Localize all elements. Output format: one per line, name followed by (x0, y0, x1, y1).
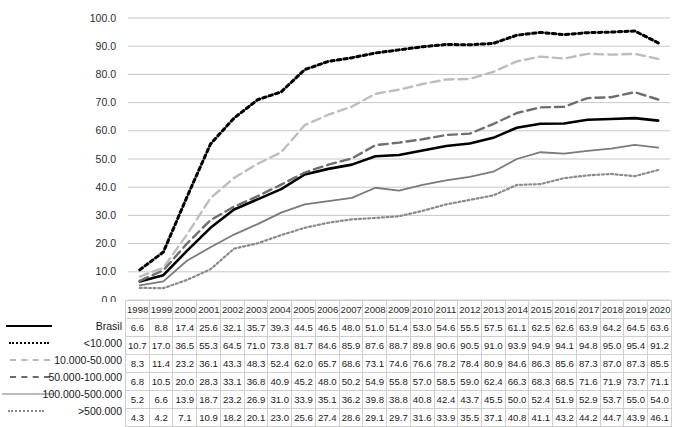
table-cell: 6.6 (126, 319, 150, 337)
table-column-header: 2016 (553, 301, 577, 319)
y-axis-tick-label: 50.0 (96, 153, 117, 165)
chart-legend: Brasil<10.00010.000-50.00050.000-100.000… (0, 300, 124, 420)
table-column-header: 2019 (624, 301, 648, 319)
table-cell: 26.9 (244, 391, 268, 409)
table-cell: 10.7 (126, 337, 150, 355)
table-cell: 25.6 (197, 319, 221, 337)
table-cell: 54.9 (363, 373, 387, 391)
table-column-header: 2007 (339, 301, 363, 319)
table-column-header: 2015 (529, 301, 553, 319)
legend-item-label: Brasil (96, 320, 122, 331)
table-cell: 93.9 (505, 337, 529, 355)
legend-item-label: <10.000 (84, 337, 122, 348)
table-row: 10.717.036.555.364.571.073.881.784.685.9… (126, 337, 672, 355)
series-lines (140, 31, 658, 288)
table-column-header: 2005 (292, 301, 316, 319)
table-cell: 44.5 (292, 319, 316, 337)
y-axis-tick-label: 80.0 (96, 68, 117, 80)
table-cell: 17.4 (173, 319, 197, 337)
table-cell: 73.7 (624, 373, 648, 391)
table-cell: 28.3 (197, 373, 221, 391)
table-cell: 58.5 (434, 373, 458, 391)
table-cell: 18.2 (220, 409, 244, 427)
table-cell: 50.2 (339, 373, 363, 391)
table-cell: 87.6 (363, 337, 387, 355)
legend-line-swatch-icon (8, 410, 44, 412)
table-cell: 76.6 (410, 355, 434, 373)
table-cell: 55.8 (387, 373, 411, 391)
table-column-header: 2017 (576, 301, 600, 319)
table-cell: 90.5 (458, 337, 482, 355)
table-cell: 63.9 (576, 319, 600, 337)
table-cell: 33.9 (434, 409, 458, 427)
chart-svg: 0.010.020.030.040.050.060.070.080.090.01… (0, 0, 682, 302)
table-cell: 91.0 (482, 337, 506, 355)
table-cell: 62.4 (482, 373, 506, 391)
table-cell: 36.2 (339, 391, 363, 409)
table-column-header: 2001 (197, 301, 221, 319)
table-cell: 48.0 (339, 319, 363, 337)
table-cell: 94.9 (529, 337, 553, 355)
legend-line-swatch-icon (10, 376, 50, 378)
table-body: 6.68.817.425.632.135.739.344.546.548.051… (126, 319, 672, 427)
series-line-1 (140, 31, 658, 270)
table-cell: 41.1 (529, 409, 553, 427)
table-column-header: 2020 (648, 301, 672, 319)
legend-item-label: 50.000-100.000 (48, 371, 122, 382)
table-cell: 43.3 (220, 355, 244, 373)
table-cell: 20.0 (173, 373, 197, 391)
table-cell: 53.7 (600, 391, 624, 409)
table-cell: 20.1 (244, 409, 268, 427)
table-cell: 38.8 (387, 391, 411, 409)
table-cell: 90.6 (434, 337, 458, 355)
table-header: 1998199920002001200220032004200520062007… (126, 301, 672, 319)
table-column-header: 2004 (268, 301, 292, 319)
table-cell: 95.0 (600, 337, 624, 355)
table-cell: 57.0 (410, 373, 434, 391)
table-cell: 74.6 (387, 355, 411, 373)
legend-item-label: 10.000-50.000 (54, 354, 122, 365)
table-cell: 62.5 (529, 319, 553, 337)
legend-item: >500.000 (0, 402, 124, 419)
table-cell: 87.0 (600, 355, 624, 373)
table-cell: 89.8 (410, 337, 434, 355)
table-cell: 62.6 (553, 319, 577, 337)
table-cell: 54.6 (434, 319, 458, 337)
legend-item: <10.000 (0, 334, 124, 351)
y-axis-tick-label: 10.0 (96, 265, 117, 277)
table-cell: 52.4 (268, 355, 292, 373)
table-cell: 31.6 (410, 409, 434, 427)
table-cell: 66.3 (505, 373, 529, 391)
table-cell: 57.5 (482, 319, 506, 337)
table-cell: 50.0 (505, 391, 529, 409)
table-cell: 7.1 (173, 409, 197, 427)
table-header-row: 1998199920002001200220032004200520062007… (126, 301, 672, 319)
table-cell: 94.1 (553, 337, 577, 355)
table-cell: 48.0 (315, 373, 339, 391)
table-cell: 86.3 (529, 355, 553, 373)
table-cell: 59.0 (458, 373, 482, 391)
table-cell: 18.7 (197, 391, 221, 409)
table-column-header: 2000 (173, 301, 197, 319)
table-cell: 23.2 (220, 391, 244, 409)
table-cell: 35.7 (244, 319, 268, 337)
table-cell: 85.5 (648, 355, 672, 373)
table-cell: 85.6 (553, 355, 577, 373)
table-cell: 6.6 (149, 391, 173, 409)
table-column-header: 2008 (363, 301, 387, 319)
legend-item-label: >500.000 (78, 405, 122, 416)
table-cell: 43.2 (553, 409, 577, 427)
legend-item-label: 100.000-500.000 (43, 388, 122, 399)
table-cell: 25.6 (292, 409, 316, 427)
table-cell: 4.2 (149, 409, 173, 427)
table-cell: 71.0 (244, 337, 268, 355)
table-column-header: 2018 (600, 301, 624, 319)
table-cell: 5.2 (126, 391, 150, 409)
table-cell: 68.6 (339, 355, 363, 373)
table-cell: 64.5 (220, 337, 244, 355)
legend-line-swatch-icon (9, 342, 49, 344)
table-cell: 17.0 (149, 337, 173, 355)
table-cell: 36.8 (244, 373, 268, 391)
table-cell: 65.7 (315, 355, 339, 373)
